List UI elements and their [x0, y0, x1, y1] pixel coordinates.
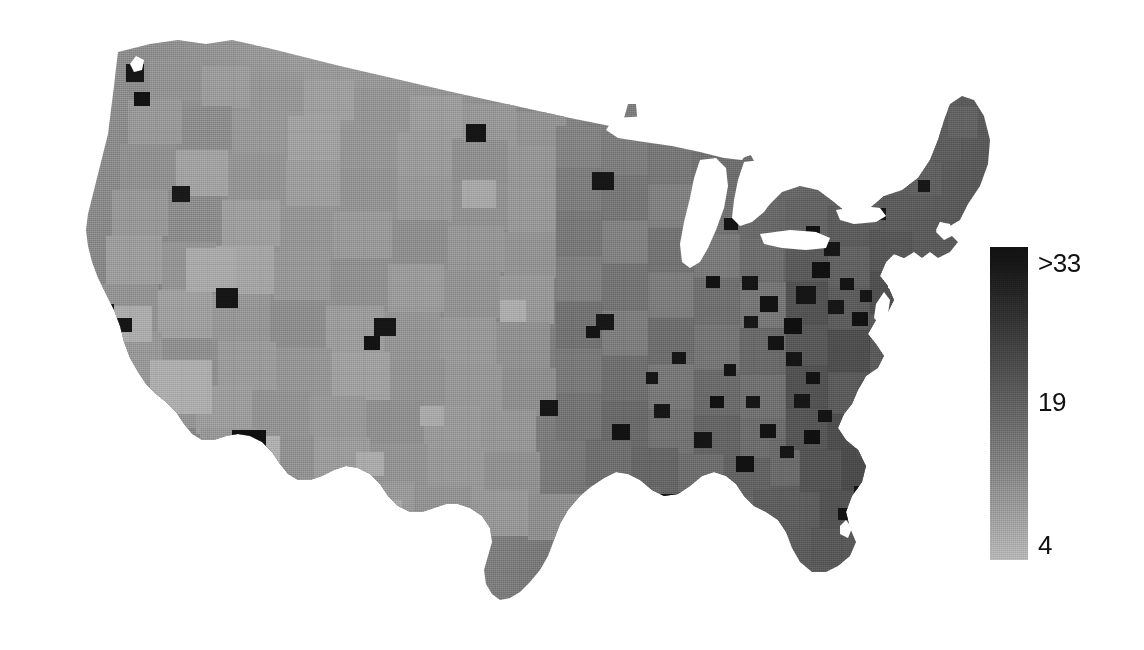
map-landmass: [0, 0, 1144, 650]
san-francisco-bay: [84, 294, 94, 308]
colorbar-halftone-texture: [990, 247, 1028, 560]
colorbar-label-low: 4: [1038, 532, 1052, 558]
figure-root: >33 19 4: [0, 0, 1144, 650]
county-grid-overlay: [0, 0, 1144, 650]
us-county-choropleth-map: >33 19 4: [0, 0, 1144, 650]
colorbar-legend: >33 19 4: [990, 247, 1140, 567]
mobile-bay: [700, 520, 712, 536]
delaware-bay: [888, 276, 900, 290]
colorbar-label-mid: 19: [1038, 389, 1066, 415]
colorbar-gradient: [990, 247, 1028, 560]
us-map-svg: [0, 0, 1144, 650]
colorbar-label-high: >33: [1038, 250, 1081, 276]
